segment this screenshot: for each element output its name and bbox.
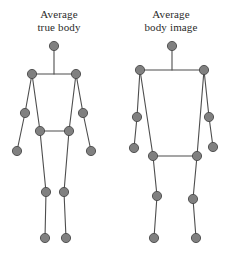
joint-foot-left <box>40 233 49 242</box>
limb-shoulder_right-to-hip_right <box>69 74 76 131</box>
limb-hip_right-to-knee_right <box>193 156 197 199</box>
limb-hip_left-to-knee_left <box>40 131 46 192</box>
joint-head <box>49 41 58 50</box>
joint-wrist-left <box>12 146 21 155</box>
joint-elbow-left <box>132 112 141 121</box>
body-comparison-figure: Average true body Average body image <box>0 0 230 255</box>
stick-figure-body-image <box>129 41 217 242</box>
joint-hip-right <box>64 126 73 135</box>
joint-shoulder-right <box>71 69 80 78</box>
limb-shoulder_left-to-hip_left <box>140 70 153 156</box>
limb-hip_right-to-knee_right <box>64 131 69 192</box>
joint-foot-right <box>191 233 200 242</box>
joint-hip-right <box>192 151 201 160</box>
joint-wrist-right <box>86 146 95 155</box>
limb-knee_left-to-foot_left <box>45 192 46 238</box>
joint-elbow-left <box>20 108 29 117</box>
joint-shoulder-right <box>199 65 208 74</box>
joint-wrist-right <box>208 142 217 151</box>
limb-shoulder_right-to-hip_right <box>197 70 204 156</box>
limb-knee_left-to-foot_left <box>154 196 157 238</box>
joint-knee-left <box>41 187 50 196</box>
joint-knee-left <box>152 191 161 200</box>
joint-foot-left <box>149 233 158 242</box>
limb-shoulder_right-to-elbow_right <box>204 70 209 117</box>
joint-head <box>167 41 176 50</box>
joint-foot-right <box>61 233 70 242</box>
joint-shoulder-left <box>27 69 36 78</box>
stick-figure-diagram <box>0 0 230 255</box>
joint-knee-right <box>188 194 197 203</box>
limb-shoulder_left-to-elbow_left <box>25 74 32 113</box>
joint-wrist-left <box>129 143 138 152</box>
limb-knee_right-to-foot_right <box>193 199 196 238</box>
limb-knee_right-to-foot_right <box>64 192 66 238</box>
joint-hip-left <box>148 151 157 160</box>
joint-knee-right <box>59 187 68 196</box>
limb-shoulder_left-to-hip_left <box>32 74 40 131</box>
limb-shoulder_right-to-elbow_right <box>76 74 83 113</box>
limb-elbow_left-to-wrist_left <box>17 113 25 151</box>
joint-elbow-right <box>78 108 87 117</box>
joint-elbow-right <box>204 112 213 121</box>
limb-hip_left-to-knee_left <box>153 156 157 196</box>
joint-shoulder-left <box>135 65 144 74</box>
limb-shoulder_left-to-elbow_left <box>137 70 140 117</box>
limb-elbow_right-to-wrist_right <box>83 113 91 151</box>
joint-hip-left <box>35 126 44 135</box>
stick-figure-true-body <box>12 41 95 242</box>
